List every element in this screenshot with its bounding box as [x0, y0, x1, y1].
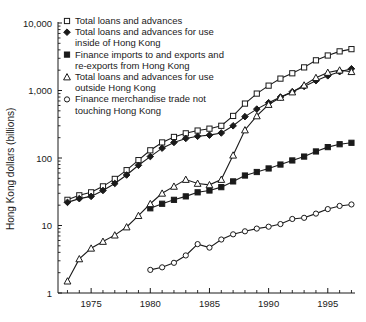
data-point-open-circle — [349, 202, 354, 207]
data-point-filled-square — [313, 149, 318, 154]
legend-label-continued: outside Hong Kong — [75, 82, 156, 93]
legend-label: Total loans and advances for use — [75, 71, 214, 82]
y-axis-tick-label: 100 — [36, 153, 52, 164]
data-point-filled-square — [266, 166, 271, 171]
y-axis-tick-label: 10,000 — [23, 18, 52, 29]
data-point-filled-square — [302, 154, 307, 159]
data-point-filled-square — [171, 197, 176, 202]
chart-figure: 10,0001,00010010119751980198519901995 Ho… — [0, 0, 366, 322]
data-point-open-square — [313, 58, 318, 63]
data-point-open-circle — [160, 265, 165, 270]
data-point-open-circle — [325, 206, 330, 211]
legend-label-continued: inside of Hong Kong — [75, 37, 161, 48]
data-point-open-square — [242, 101, 247, 106]
data-point-filled-square — [325, 145, 330, 150]
data-point-open-square — [64, 18, 69, 23]
legend-marker — [64, 52, 69, 57]
data-point-filled-square — [254, 169, 259, 174]
x-axis-tick-label: 1995 — [317, 298, 338, 309]
data-point-filled-square — [64, 52, 69, 57]
y-axis-tick-label: 1 — [47, 288, 52, 299]
y-axis-tick-label: 10 — [41, 220, 52, 231]
data-point-filled-square — [195, 190, 200, 195]
data-point-open-circle — [195, 242, 200, 247]
y-axis-label: Hong Kong dollars (billions) — [5, 108, 16, 230]
data-point-filled-square — [231, 179, 236, 184]
data-point-open-circle — [171, 260, 176, 265]
data-point-open-square — [266, 83, 271, 88]
data-point-filled-square — [349, 140, 354, 145]
data-point-open-circle — [302, 215, 307, 220]
data-point-filled-square — [160, 201, 165, 206]
data-point-open-circle — [183, 253, 188, 258]
log-line-chart: 10,0001,00010010119751980198519901995 Ho… — [0, 0, 366, 322]
data-point-open-square — [219, 123, 224, 128]
data-point-filled-square — [290, 158, 295, 163]
legend-label-continued: re-exports from Hong Kong — [75, 60, 190, 71]
data-point-filled-square — [207, 188, 212, 193]
data-point-open-square — [254, 91, 259, 96]
data-point-open-square — [302, 65, 307, 70]
y-axis-tick-label: 1,000 — [28, 85, 52, 96]
y-axis-label-text: Hong Kong dollars (billions) — [5, 108, 16, 230]
data-point-filled-square — [337, 142, 342, 147]
data-point-open-circle — [278, 221, 283, 226]
legend-label: Finance imports to and exports and — [75, 49, 224, 60]
x-axis-tick-label: 1980 — [140, 298, 161, 309]
data-point-open-circle — [207, 245, 212, 250]
data-point-open-circle — [219, 237, 224, 242]
x-axis-tick-label: 1990 — [258, 298, 279, 309]
data-point-open-square — [349, 47, 354, 52]
data-point-open-circle — [290, 216, 295, 221]
legend-marker — [64, 18, 69, 23]
data-point-open-circle — [242, 229, 247, 234]
legend-label: Total loans and advances — [75, 15, 182, 26]
data-point-open-square — [207, 126, 212, 131]
legend-marker — [64, 97, 69, 102]
legend-label: Finance merchandise trade not — [75, 93, 206, 104]
data-point-open-square — [290, 71, 295, 76]
data-point-open-circle — [337, 203, 342, 208]
data-point-open-square — [325, 53, 330, 58]
data-point-open-circle — [266, 224, 271, 229]
data-point-filled-square — [183, 194, 188, 199]
legend-label-continued: touching Hong Kong — [75, 105, 161, 116]
legend-label: Total loans and advances for use — [75, 26, 214, 37]
data-point-open-square — [148, 148, 153, 153]
data-point-filled-square — [219, 185, 224, 190]
data-point-open-circle — [64, 97, 69, 102]
data-point-open-square — [278, 76, 283, 81]
data-point-open-square — [231, 113, 236, 118]
data-point-open-square — [337, 49, 342, 54]
data-point-filled-square — [278, 162, 283, 167]
data-point-open-circle — [231, 232, 236, 237]
data-point-filled-square — [242, 173, 247, 178]
x-axis-tick-label: 1975 — [81, 298, 102, 309]
x-axis-tick-label: 1985 — [199, 298, 220, 309]
data-point-open-circle — [148, 267, 153, 272]
data-point-open-circle — [313, 211, 318, 216]
data-point-open-circle — [254, 226, 259, 231]
